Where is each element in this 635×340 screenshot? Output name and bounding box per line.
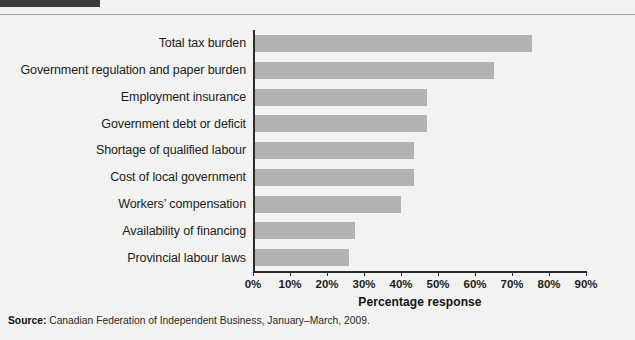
category-label: Availability of financing (122, 224, 246, 238)
x-axis-tick (512, 271, 513, 276)
source-note: Source: Canadian Federation of Independe… (8, 315, 370, 326)
x-axis-tick (364, 271, 365, 276)
category-label: Government regulation and paper burden (20, 63, 246, 77)
category-label: Employment insurance (121, 90, 246, 104)
bar-chart: Total tax burdenGovernment regulation an… (0, 16, 635, 296)
bar-row: Total tax burden (253, 30, 586, 57)
bar (253, 115, 427, 132)
bar (253, 62, 494, 79)
bar (253, 249, 349, 266)
category-label: Workers’ compensation (118, 197, 246, 211)
x-axis-tick-label: 40% (389, 278, 412, 290)
bar (253, 89, 427, 106)
header-divider (0, 14, 635, 15)
source-text: Canadian Federation of Independent Busin… (46, 315, 369, 326)
x-axis-tick (327, 271, 328, 276)
x-axis-tick-label: 0% (245, 278, 262, 290)
bar-row: Cost of local government (253, 164, 586, 191)
category-label: Cost of local government (110, 170, 246, 184)
bar (253, 196, 401, 213)
y-axis-line (253, 30, 255, 271)
x-axis-tick (290, 271, 291, 276)
x-axis-tick (475, 271, 476, 276)
x-axis-tick-label: 70% (500, 278, 523, 290)
bar (253, 222, 355, 239)
bar-row: Government regulation and paper burden (253, 57, 586, 84)
x-axis-tick (401, 271, 402, 276)
x-axis-tick-label: 20% (315, 278, 338, 290)
bar-row: Provincial labour laws (253, 244, 586, 271)
chart-page: Total tax burdenGovernment regulation an… (0, 0, 635, 340)
x-axis-tick (253, 271, 254, 276)
x-axis-line (253, 271, 587, 273)
x-axis-tick (438, 271, 439, 276)
source-label: Source: (8, 315, 46, 326)
bar (253, 142, 414, 159)
bar-row: Workers’ compensation (253, 191, 586, 218)
bar-row: Availability of financing (253, 217, 586, 244)
bar-row: Employment insurance (253, 84, 586, 111)
bar (253, 169, 414, 186)
title-block-sliver (0, 0, 100, 7)
category-label: Shortage of qualified labour (96, 143, 246, 157)
x-axis-tick-label: 30% (352, 278, 375, 290)
x-axis-tick-label: 10% (278, 278, 301, 290)
x-axis-tick-label: 50% (426, 278, 449, 290)
category-label: Government debt or deficit (101, 117, 246, 131)
bar-row: Government debt or deficit (253, 110, 586, 137)
bar (253, 35, 532, 52)
category-label: Total tax burden (159, 36, 246, 50)
category-label: Provincial labour laws (127, 251, 246, 265)
x-axis-tick (586, 271, 587, 276)
x-axis-tick (549, 271, 550, 276)
x-axis-tick-label: 80% (537, 278, 560, 290)
bar-row: Shortage of qualified labour (253, 137, 586, 164)
x-axis-title: Percentage response (253, 295, 587, 309)
x-axis-tick-label: 60% (463, 278, 486, 290)
x-axis-tick-label: 90% (574, 278, 597, 290)
plot-area: Total tax burdenGovernment regulation an… (253, 30, 586, 271)
